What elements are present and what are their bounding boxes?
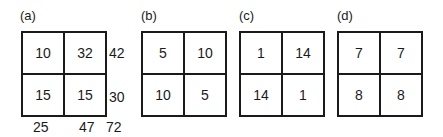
- contingency-grid: 7 7 8 8: [337, 31, 423, 117]
- contingency-grid: 5 10 10 5: [141, 31, 227, 117]
- panel-label: (d): [337, 8, 353, 23]
- contingency-grid: 1 14 14 1: [239, 31, 325, 117]
- cell: 7: [339, 33, 380, 74]
- cell: 5: [143, 33, 184, 74]
- row-total: 30: [109, 89, 125, 105]
- cell: 1: [241, 33, 282, 74]
- cell: 15: [23, 74, 64, 115]
- cell: 1: [282, 74, 323, 115]
- cell: 32: [64, 33, 105, 74]
- cell: 10: [23, 33, 64, 74]
- cell: 10: [143, 74, 184, 115]
- cell: 15: [64, 74, 105, 115]
- cell: 7: [380, 33, 421, 74]
- cell: 5: [184, 74, 225, 115]
- cell: 14: [241, 74, 282, 115]
- cell: 14: [282, 33, 323, 74]
- panel-label: (c): [239, 8, 254, 23]
- panel-label: (b): [141, 8, 157, 23]
- panel-label: (a): [20, 8, 36, 23]
- cell: 8: [380, 74, 421, 115]
- contingency-grid: 10 32 15 15: [21, 31, 107, 117]
- col-total: 47: [79, 119, 95, 135]
- grand-total: 72: [106, 119, 122, 135]
- cell: 8: [339, 74, 380, 115]
- col-total: 25: [33, 119, 49, 135]
- cell: 10: [184, 33, 225, 74]
- row-total: 42: [109, 45, 125, 61]
